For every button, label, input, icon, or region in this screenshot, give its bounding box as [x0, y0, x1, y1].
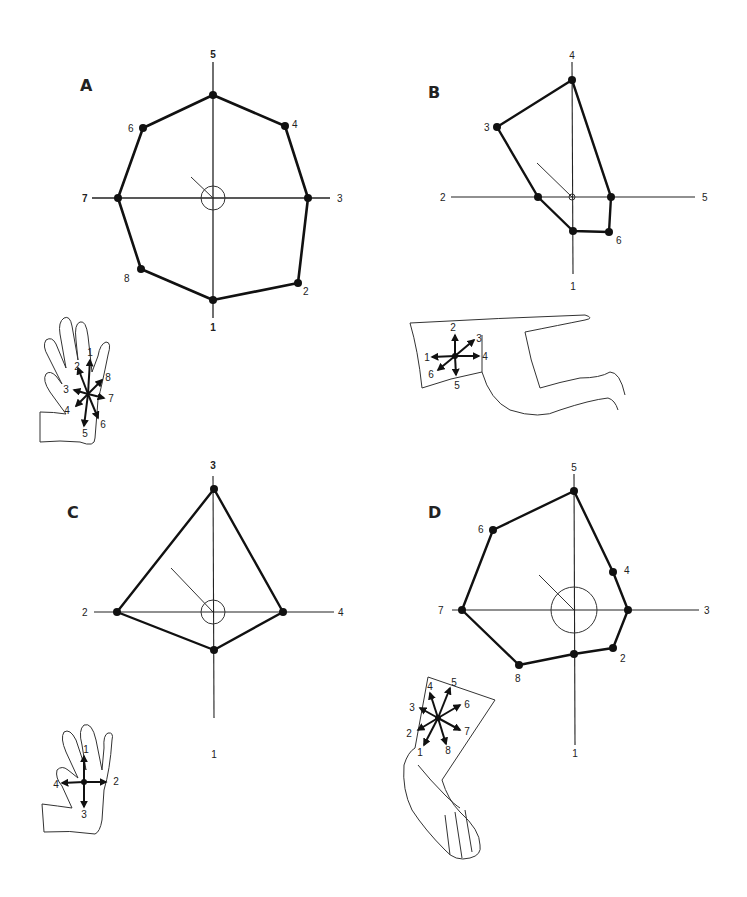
panel-label-d: D [428, 503, 441, 522]
svg-text:6: 6 [428, 369, 434, 380]
point-label-d-2: 2 [620, 653, 626, 664]
axis-label-left-b: 2 [440, 192, 446, 203]
panel-label-c: C [67, 503, 79, 522]
panel-b: B 4 5 1 2 3 6 [410, 50, 708, 415]
scale-bar-d [539, 575, 574, 610]
svg-text:3: 3 [409, 702, 415, 713]
svg-text:3: 3 [63, 384, 69, 395]
svg-text:5: 5 [82, 428, 88, 439]
panel-a: A 5 3 1 7 6 4 8 2 [40, 49, 343, 444]
axis-label-top-c: 3 [210, 460, 216, 471]
svg-text:1: 1 [424, 352, 430, 363]
point-label-d-4: 4 [624, 565, 630, 576]
scale-bar-c [171, 568, 213, 612]
point-label-d-6: 6 [478, 524, 484, 535]
point-label-a-4: 4 [292, 119, 298, 130]
axis-label-bottom-d: 1 [572, 748, 578, 759]
point-label-b-6: 6 [616, 235, 622, 246]
axis-label-right-c: 4 [338, 607, 344, 618]
svg-text:2: 2 [113, 776, 119, 787]
point-label-b-3: 3 [484, 122, 490, 133]
panel-label-b: B [428, 83, 440, 102]
axis-label-bottom-a: 1 [210, 322, 216, 333]
axis-label-top-a: 5 [210, 49, 216, 60]
axis-label-right-a: 3 [337, 193, 343, 204]
svg-text:4: 4 [427, 681, 433, 692]
axis-label-right-b: 5 [702, 192, 708, 203]
vertices-c [113, 485, 287, 654]
panel-label-a: A [80, 76, 93, 95]
polygon-c [117, 489, 283, 650]
svg-text:3: 3 [81, 809, 87, 820]
point-label-a-6: 6 [128, 123, 134, 134]
panel-d: D 5 3 1 7 6 4 8 2 [404, 462, 710, 859]
svg-text:2: 2 [406, 728, 412, 739]
axes-b [451, 62, 695, 274]
axes-d [452, 474, 699, 745]
svg-text:4: 4 [64, 405, 70, 416]
inset-arm-b [410, 315, 625, 415]
axis-label-left-d: 7 [438, 605, 444, 616]
axis-label-left-a: 7 [82, 193, 88, 204]
axis-label-top-b: 4 [569, 50, 575, 61]
scale-bar-b [537, 163, 572, 197]
svg-text:4: 4 [482, 351, 488, 362]
axis-label-bottom-c: 1 [211, 749, 217, 760]
svg-text:6: 6 [100, 419, 106, 430]
panel-c: C 3 4 1 2 1 2 3 4 [42, 460, 344, 834]
scale-bar-a [191, 177, 213, 198]
polygon-d [462, 491, 628, 665]
vertices-d [458, 487, 632, 669]
point-label-d-8: 8 [515, 673, 521, 684]
svg-text:8: 8 [445, 745, 451, 756]
polygon-b [497, 80, 611, 232]
svg-text:8: 8 [105, 372, 111, 383]
axis-label-top-d: 5 [571, 462, 577, 473]
svg-text:5: 5 [451, 677, 457, 688]
axis-label-bottom-b: 1 [570, 281, 576, 292]
point-label-a-2: 2 [303, 286, 309, 297]
axis-label-left-c: 2 [82, 607, 88, 618]
inset-hand-a [40, 317, 110, 444]
point-label-a-8: 8 [124, 273, 130, 284]
svg-text:1: 1 [87, 347, 93, 358]
svg-text:2: 2 [450, 322, 456, 333]
svg-text:1: 1 [417, 747, 423, 758]
svg-text:2: 2 [74, 361, 80, 372]
svg-text:4: 4 [53, 779, 59, 790]
inset-leg-foot-d [404, 677, 495, 859]
svg-text:5: 5 [454, 380, 460, 391]
svg-text:6: 6 [464, 699, 470, 710]
figure-canvas: A 5 3 1 7 6 4 8 2 [0, 0, 747, 897]
svg-text:1: 1 [83, 744, 89, 755]
axis-label-right-d: 3 [704, 605, 710, 616]
svg-text:3: 3 [476, 333, 482, 344]
svg-text:7: 7 [108, 393, 114, 404]
svg-text:7: 7 [464, 726, 470, 737]
